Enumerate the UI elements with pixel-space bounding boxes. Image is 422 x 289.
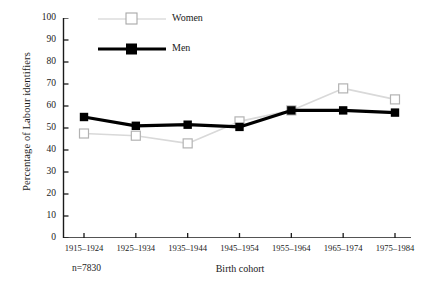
y-tick-label: 60	[30, 101, 56, 111]
y-tick-label: 0	[30, 233, 56, 243]
data-point	[391, 95, 400, 104]
data-point	[131, 131, 140, 140]
data-point	[132, 122, 140, 130]
series-line	[84, 88, 395, 143]
data-point	[80, 129, 89, 138]
legend-label-women: Women	[172, 12, 203, 23]
chart-figure: Percentage of Labour identifiers 1009080…	[0, 0, 422, 289]
legend-swatch-women-icon	[96, 10, 168, 28]
y-tick-label: 30	[30, 167, 56, 177]
y-tick-label: 40	[30, 145, 56, 155]
y-tick-label: 80	[30, 57, 56, 67]
data-point	[287, 106, 295, 114]
sample-size-note: n=7830	[72, 263, 101, 273]
data-point	[339, 106, 347, 114]
data-point	[391, 108, 399, 116]
y-tick-label: 100	[30, 13, 56, 23]
y-tick-label: 20	[30, 189, 56, 199]
y-tick-label: 70	[30, 79, 56, 89]
legend-label-men: Men	[172, 42, 190, 53]
legend-swatch-men-icon	[96, 40, 168, 58]
series-women	[80, 84, 400, 148]
chart-legend: Women Men	[96, 10, 246, 62]
y-tick-label: 90	[30, 35, 56, 45]
data-point	[183, 139, 192, 148]
data-point	[235, 123, 243, 131]
data-point	[339, 84, 348, 93]
x-axis-title: Birth cohort	[130, 263, 350, 274]
y-tick-label: 10	[30, 211, 56, 221]
legend-item-women: Women	[96, 10, 246, 28]
legend-item-men: Men	[96, 40, 246, 58]
x-tick-label: 1975–1984	[362, 243, 422, 253]
data-point	[183, 121, 191, 129]
y-tick-label: 50	[30, 123, 56, 133]
data-point	[80, 113, 88, 121]
